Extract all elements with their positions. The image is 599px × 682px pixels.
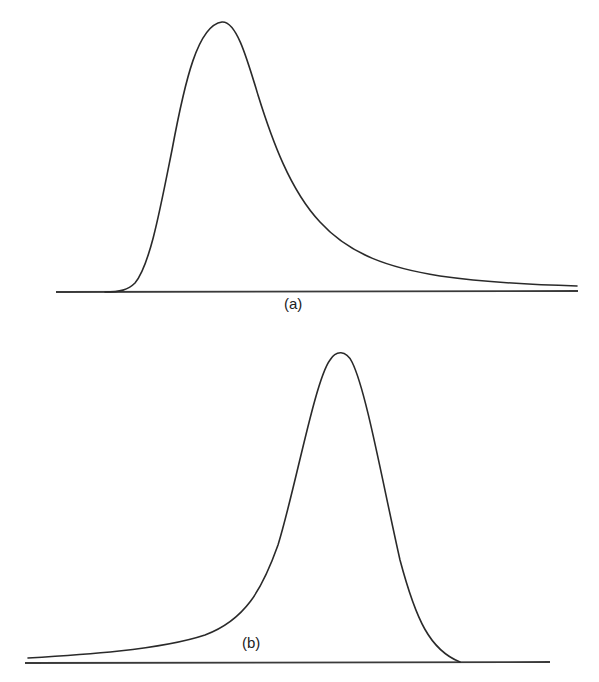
panel-b-chart [25, 353, 550, 663]
panel-b-density-curve [28, 353, 460, 662]
panel-a-density-curve [105, 22, 577, 292]
panel-a-chart [56, 22, 578, 292]
panel-b-label: (b) [242, 634, 260, 651]
panel-b-x-axis [25, 662, 550, 663]
panel-a-x-axis [56, 291, 578, 292]
panel-a-label: (a) [284, 295, 302, 312]
skewness-figure [0, 0, 599, 682]
